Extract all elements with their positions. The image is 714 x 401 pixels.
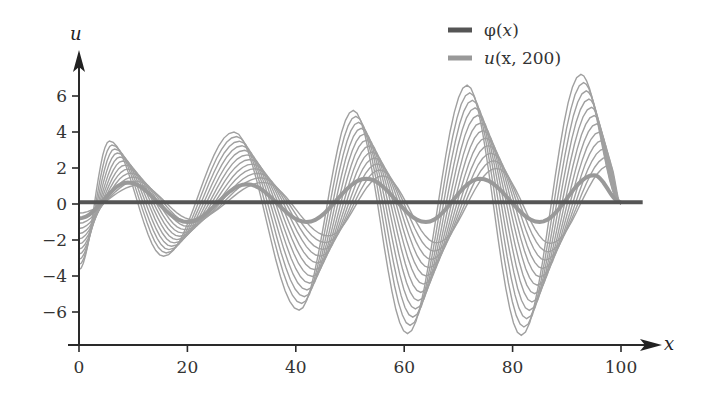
y-tick-label: 4 [56, 122, 67, 142]
x-tick-label: 100 [605, 357, 637, 377]
x-tick-label: 0 [74, 357, 85, 377]
x-tick-label: 60 [393, 357, 415, 377]
legend-item-u: u(x, 200) [448, 48, 561, 68]
x-tick-label: 20 [177, 357, 199, 377]
legend-item-phi: φ(x) [448, 20, 519, 40]
legend: φ(x) u(x, 200) [448, 20, 561, 68]
plot-curves [79, 74, 643, 335]
y-tick-label: −4 [42, 266, 67, 286]
y-ticks: −6−4−20246 [42, 86, 79, 322]
y-axis-title: u [70, 23, 82, 44]
legend-label-u: u(x, 200) [484, 48, 561, 68]
chart-canvas: −6−4−20246 020406080100 u x φ(x) u(x, 20… [0, 0, 714, 401]
y-tick-label: 6 [56, 86, 67, 106]
x-tick-label: 80 [502, 357, 524, 377]
y-tick-label: −2 [42, 230, 67, 250]
x-axis-title: x [664, 333, 674, 354]
x-ticks: 020406080100 [74, 345, 638, 377]
x-tick-label: 40 [285, 357, 307, 377]
legend-label-phi: φ(x) [484, 20, 519, 40]
y-tick-label: 0 [56, 194, 67, 214]
y-tick-label: 2 [56, 158, 67, 178]
y-tick-label: −6 [42, 302, 67, 322]
